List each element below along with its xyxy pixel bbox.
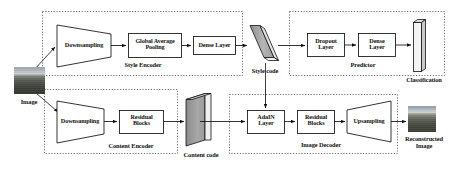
node-dropout-layer	[308, 34, 345, 57]
diagram-vector-layer	[0, 0, 455, 170]
reconstructed-image-thumbnail	[408, 106, 436, 132]
figure-canvas: Downsampling Global Average Pooling Dens…	[0, 0, 455, 170]
node-upsampling	[347, 101, 391, 142]
code-classification	[414, 20, 426, 72]
node-style-dense-layer	[194, 37, 236, 55]
code-style-code	[250, 26, 279, 61]
node-pred-dense-layer	[359, 34, 396, 57]
node-content-downsampling	[57, 101, 104, 143]
node-decoder-residual-blocks	[298, 111, 335, 134]
node-global-average-pooling	[129, 34, 182, 58]
code-content-code	[186, 94, 211, 147]
node-content-residual-blocks	[120, 111, 164, 134]
node-adain-layer	[248, 111, 285, 134]
node-style-downsampling	[57, 25, 111, 67]
source-image-thumbnail	[14, 67, 45, 94]
